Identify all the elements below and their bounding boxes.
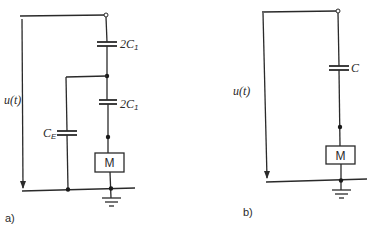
panel-b: C M u(t) b): [233, 9, 367, 218]
ground-icon: [102, 198, 121, 206]
wire: [110, 172, 111, 198]
terminal-a: [104, 13, 108, 17]
panel-label-b: b): [243, 206, 253, 218]
source-label-b: u(t): [233, 84, 250, 98]
capacitor-mid-label: 2C1: [120, 97, 138, 112]
bottom-wire-b: [266, 179, 367, 182]
wire: [338, 13, 339, 66]
junction-dot: [106, 135, 110, 139]
arrow-head-icon: [264, 171, 270, 179]
panel-a: 2C1 2C1 CE M u(t) a): [4, 13, 138, 224]
arrow-head-icon: [20, 181, 26, 189]
wire: [67, 135, 68, 189]
junction-dot: [66, 187, 70, 191]
junction-dot: [339, 178, 343, 182]
circuit-diagram: 2C1 2C1 CE M u(t) a): [0, 0, 373, 231]
source-label-a: u(t): [4, 93, 21, 107]
capacitor-label-b: C: [351, 61, 360, 75]
junction-dot: [338, 125, 342, 129]
motor-label-b: M: [336, 149, 346, 163]
wire: [106, 17, 107, 42]
top-wire-b: [262, 11, 337, 12]
capacitor-top-label: 2C1: [120, 37, 138, 52]
motor-label-a: M: [105, 156, 115, 170]
junction-dot: [109, 186, 113, 190]
top-wire-a: [20, 15, 106, 16]
voltage-arrow-a: [22, 19, 23, 188]
voltage-arrow-b: [263, 13, 267, 178]
bottom-wire-a: [22, 188, 135, 191]
wire: [339, 70, 340, 146]
panel-label-a: a): [5, 212, 15, 224]
capacitor-shunt-label: CE: [43, 126, 57, 141]
wire: [66, 77, 67, 131]
terminal-b: [336, 9, 340, 13]
ground-icon: [332, 190, 351, 198]
wire: [66, 76, 107, 77]
